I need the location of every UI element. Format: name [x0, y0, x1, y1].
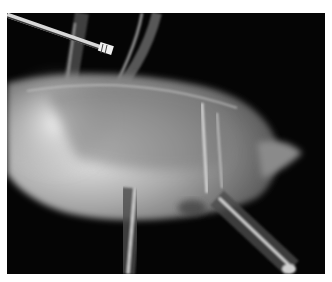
- leg-right: [217, 198, 296, 274]
- xray-image: [7, 13, 325, 274]
- xray-radiograph: [7, 13, 325, 274]
- body: [7, 68, 302, 220]
- leg-band: [7, 15, 114, 55]
- leg-left: [125, 188, 135, 274]
